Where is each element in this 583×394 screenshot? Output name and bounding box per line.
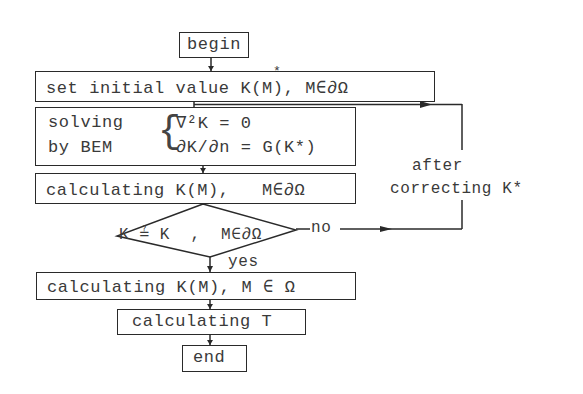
end-label: end bbox=[193, 348, 225, 367]
equation-laplace: ∇²K = 0 bbox=[176, 112, 252, 133]
star-superscript: * bbox=[273, 64, 281, 79]
calc-T-label: calculating T bbox=[132, 312, 272, 331]
decision-label: K ≟ K , M∈∂Ω bbox=[119, 224, 262, 244]
solving-label-line2: by BEM bbox=[48, 138, 113, 157]
set-initial-label: set initial value K(M), M∈∂Ω bbox=[46, 77, 348, 98]
equation-boundary: ∂K/∂n = G(K*) bbox=[176, 138, 316, 157]
begin-label: begin bbox=[187, 35, 241, 54]
calc-domain-label: calculating K(M), M ∈ Ω bbox=[47, 276, 295, 297]
no-label: no bbox=[311, 219, 331, 237]
solving-label-line1: solving bbox=[48, 113, 124, 132]
feedback-label-line2: correcting K* bbox=[390, 180, 523, 198]
feedback-label-line1: after bbox=[412, 157, 463, 175]
yes-label: yes bbox=[228, 253, 259, 271]
calc-boundary-label: calculating K(M), M∈∂Ω bbox=[46, 179, 305, 200]
